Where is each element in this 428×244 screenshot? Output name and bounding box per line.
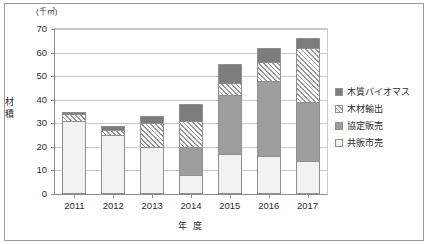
bar-segment bbox=[101, 135, 125, 194]
x-tick-label: 2012 bbox=[103, 200, 124, 211]
bar-segment bbox=[218, 64, 242, 83]
bar-group bbox=[218, 64, 242, 194]
y-tick-mark bbox=[51, 76, 55, 77]
bar-group bbox=[257, 48, 281, 194]
market-swatch-icon bbox=[335, 139, 343, 147]
x-tick-mark bbox=[269, 194, 270, 198]
bar-group bbox=[296, 38, 320, 194]
stacked-bar-chart-figure: (千㎥) 材 積 0102030405060702011201220132014… bbox=[0, 0, 428, 244]
x-tick-label: 2014 bbox=[180, 200, 201, 211]
chart-legend: 木質バイオマス 木材輸出 協定販売 共販市売 bbox=[335, 83, 427, 151]
bar-segment bbox=[218, 83, 242, 95]
bar-segment bbox=[140, 123, 164, 147]
y-tick-mark bbox=[51, 123, 55, 124]
y-axis-unit-label: (千㎥) bbox=[36, 5, 57, 16]
x-tick-mark bbox=[308, 194, 309, 198]
x-tick-mark bbox=[191, 194, 192, 198]
y-tick-label: 50 bbox=[1, 70, 47, 81]
bar-segment bbox=[257, 48, 281, 62]
bar-segment bbox=[101, 126, 125, 131]
legend-item-biomass: 木質バイオマス bbox=[335, 83, 427, 100]
y-tick-mark bbox=[51, 194, 55, 195]
bar-segment bbox=[179, 104, 203, 121]
bar-segment bbox=[218, 154, 242, 194]
bar-segment bbox=[179, 121, 203, 147]
x-tick-label: 2016 bbox=[258, 200, 279, 211]
bar-segment bbox=[257, 81, 281, 156]
bar-segment bbox=[179, 175, 203, 194]
x-tick-label: 2013 bbox=[142, 200, 163, 211]
y-tick-mark bbox=[51, 170, 55, 171]
y-tick-label: 0 bbox=[1, 188, 47, 199]
bar-segment bbox=[62, 112, 86, 114]
bar-segment bbox=[179, 147, 203, 175]
plot-area: 0102030405060702011201220132014201520162… bbox=[54, 28, 328, 195]
bar-segment bbox=[296, 102, 320, 161]
bar-group bbox=[179, 104, 203, 194]
bar-segment bbox=[140, 116, 164, 123]
bar-segment bbox=[62, 114, 86, 121]
x-tick-label: 2011 bbox=[64, 200, 84, 211]
bar-segment bbox=[62, 121, 86, 194]
bar-segment bbox=[140, 147, 164, 194]
y-tick-label: 70 bbox=[1, 23, 47, 34]
x-tick-label: 2015 bbox=[219, 200, 240, 211]
y-tick-mark bbox=[51, 29, 55, 30]
bar-segment bbox=[296, 48, 320, 102]
y-tick-label: 20 bbox=[1, 141, 47, 152]
x-tick-label: 2017 bbox=[297, 200, 318, 211]
x-tick-mark bbox=[74, 194, 75, 198]
gridline bbox=[55, 29, 327, 30]
x-axis-title: 年 度 bbox=[54, 219, 328, 232]
y-tick-label: 10 bbox=[1, 164, 47, 175]
gridline bbox=[55, 76, 327, 77]
y-tick-mark bbox=[51, 53, 55, 54]
legend-label-agreement: 協定販売 bbox=[347, 121, 383, 131]
y-tick-mark bbox=[51, 100, 55, 101]
bar-segment bbox=[257, 62, 281, 81]
bar-group bbox=[101, 126, 125, 194]
gridline bbox=[55, 100, 327, 101]
legend-item-market: 共販市売 bbox=[335, 134, 427, 151]
bar-group bbox=[62, 112, 86, 194]
bar-group bbox=[140, 116, 164, 194]
legend-label-export: 木材輸出 bbox=[347, 104, 383, 114]
bar-segment bbox=[257, 156, 281, 194]
export-swatch-icon bbox=[335, 105, 343, 113]
legend-label-biomass: 木質バイオマス bbox=[347, 87, 410, 97]
gridline bbox=[55, 53, 327, 54]
y-tick-label: 40 bbox=[1, 94, 47, 105]
x-tick-mark bbox=[230, 194, 231, 198]
y-tick-label: 60 bbox=[1, 47, 47, 58]
bar-segment bbox=[296, 161, 320, 194]
x-tick-mark bbox=[113, 194, 114, 198]
agreement-swatch-icon bbox=[335, 122, 343, 130]
bar-segment bbox=[101, 130, 125, 135]
y-tick-mark bbox=[51, 147, 55, 148]
legend-item-export: 木材輸出 bbox=[335, 100, 427, 117]
y-tick-label: 30 bbox=[1, 117, 47, 128]
biomass-swatch-icon bbox=[335, 88, 343, 96]
bar-segment bbox=[296, 38, 320, 47]
legend-label-market: 共販市売 bbox=[347, 138, 383, 148]
bar-segment bbox=[218, 95, 242, 154]
legend-item-agreement: 協定販売 bbox=[335, 117, 427, 134]
x-tick-mark bbox=[152, 194, 153, 198]
